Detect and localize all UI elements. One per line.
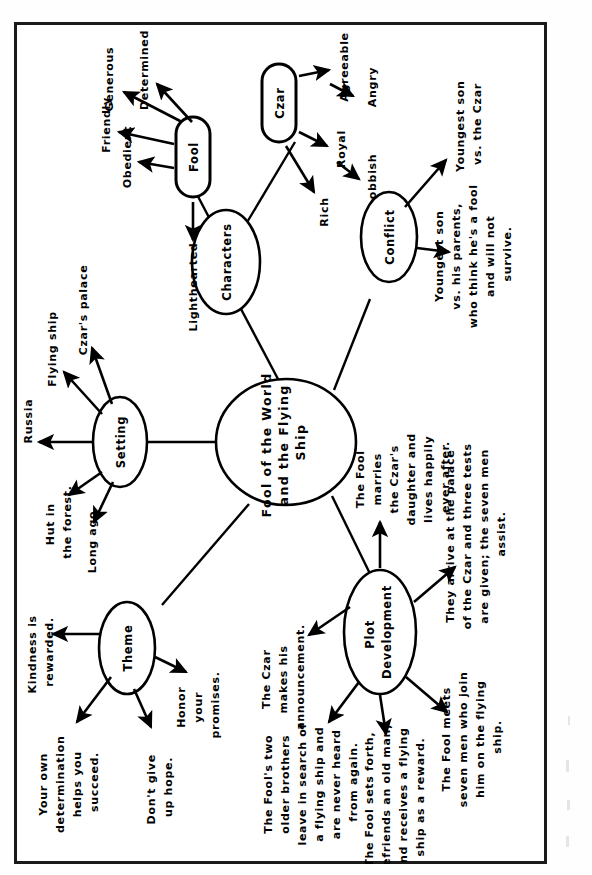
- setting-children: Czar's palace Flying ship Russia Hut in …: [22, 265, 99, 574]
- node-plot-development[interactable]: Plot Development: [344, 570, 416, 694]
- setting-child-czars-palace: Czar's palace: [77, 265, 90, 356]
- node-czar[interactable]: Czar: [262, 64, 296, 142]
- plot-child-older-brothers: The Fool's two older brothers leave in s…: [262, 718, 360, 845]
- setting-child-long-ago: Long ago: [86, 511, 99, 574]
- scan-artifact: [568, 716, 570, 725]
- concept-map: Fool of the World and the Flying Ship Ch…: [14, 22, 547, 864]
- plot-child-three-tests: They arrive at the palace of the Czar an…: [444, 439, 508, 629]
- node-conflict[interactable]: Conflict: [361, 192, 417, 282]
- characters-node-label: Characters: [220, 223, 234, 300]
- plot-child-fool-marries: The Fool marries the Czar's daughter and…: [354, 429, 452, 526]
- fool-node-label: Fool: [187, 142, 201, 172]
- czar-trait-rich: Rich: [318, 197, 331, 226]
- czar-traits: Agreeable Angry Royal Snobbish Rich: [318, 32, 379, 226]
- setting-node-label: Setting: [114, 416, 128, 468]
- czar-trait-agreeable: Agreeable: [338, 32, 351, 102]
- fool-trait-lighthearted: Lighthearted: [187, 243, 200, 332]
- fool-trait-friendly: Friendly: [100, 97, 113, 153]
- scan-artifact: [567, 800, 570, 810]
- theme-child-kindness: Kindness is rewarded.: [26, 611, 56, 694]
- plot-child-czar-announcement: The Czar makes his announcement.: [260, 624, 307, 730]
- plot-child-fool-sets-forth: The Fool sets forth, befriends an old ma…: [363, 719, 427, 864]
- scan-artifact: [566, 760, 569, 772]
- theme-child-honor-promises: Honor your promises.: [175, 671, 222, 738]
- fool-trait-determined: Determined: [138, 30, 151, 110]
- theme-child-dont-give-up: Don't give up hope.: [145, 750, 175, 825]
- setting-child-russia: Russia: [22, 399, 35, 444]
- scanned-page: Fool of the World and the Flying Ship Ch…: [0, 0, 592, 875]
- czar-node-label: Czar: [273, 87, 287, 118]
- conflict-children: Youngest son vs. the Czar Youngest son v…: [433, 76, 514, 328]
- node-characters[interactable]: Characters: [192, 210, 260, 314]
- theme-child-determination: Your own determination helps you succeed…: [37, 731, 101, 833]
- czar-trait-royal: Royal: [335, 130, 348, 168]
- fool-trait-obedient: Obedient: [121, 126, 134, 188]
- plot-child-fool-meets-seven-men: The Fool meets seven men who join him on…: [440, 667, 504, 807]
- conflict-node-label: Conflict: [383, 209, 397, 264]
- conflict-child-vs-parents: Youngest son vs. his parents, who think …: [433, 180, 514, 328]
- node-fool[interactable]: Fool: [176, 117, 210, 197]
- conflict-child-vs-czar: Youngest son vs. the Czar: [454, 76, 484, 173]
- setting-child-hut-in-forest: Hut in the forest.: [44, 485, 74, 558]
- theme-node-label: Theme: [121, 624, 135, 671]
- scan-artifact: [566, 836, 569, 847]
- czar-trait-angry: Angry: [366, 67, 379, 107]
- setting-child-flying-ship: Flying ship: [46, 311, 59, 386]
